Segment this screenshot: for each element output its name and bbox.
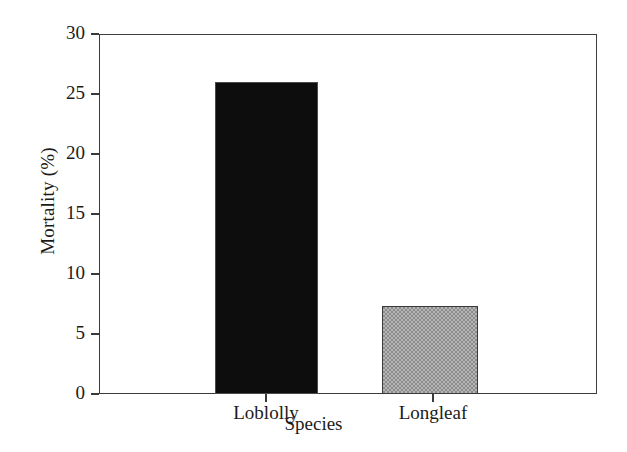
y-tick-label: 5 xyxy=(76,322,86,344)
bar-chart-figure: Mortality (%) 30 25 20 15 10 5 0 Lobloll… xyxy=(0,0,627,452)
y-tick-mark xyxy=(91,333,99,335)
x-tick-mark-loblolly xyxy=(265,394,267,402)
y-tick-label: 20 xyxy=(66,142,85,164)
y-tick-label: 10 xyxy=(66,262,85,284)
y-tick-label: 15 xyxy=(66,202,85,224)
y-tick-mark xyxy=(91,153,99,155)
y-tick-mark xyxy=(91,33,99,35)
plot-area xyxy=(99,34,597,394)
y-tick-mark xyxy=(91,393,99,395)
bar-longleaf xyxy=(382,306,478,394)
x-tick-mark-longleaf xyxy=(432,394,434,402)
y-tick-label: 25 xyxy=(66,82,85,104)
y-axis-title: Mortality (%) xyxy=(37,91,59,311)
bar-loblolly xyxy=(215,82,318,394)
y-tick-label: 30 xyxy=(66,22,85,44)
y-tick-mark xyxy=(91,273,99,275)
y-tick-mark xyxy=(91,93,99,95)
x-axis-title: Species xyxy=(0,413,627,435)
y-tick-label: 0 xyxy=(76,382,86,404)
y-tick-mark xyxy=(91,213,99,215)
